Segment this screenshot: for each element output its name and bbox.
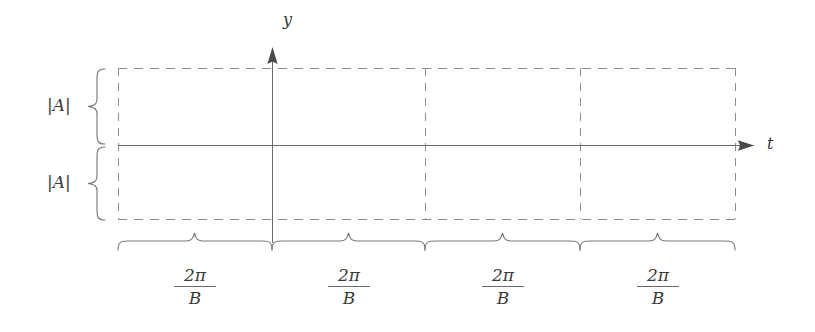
period-brace-4 (580, 233, 735, 250)
period-label-4: 2π B (637, 267, 679, 307)
period-numerator: 2π (174, 267, 216, 285)
fraction-bar (637, 286, 679, 287)
t-axis-arrowhead (738, 140, 754, 150)
period-numerator: 2π (482, 267, 524, 285)
period-numerator: 2π (637, 267, 679, 285)
amplitude-brace-group (88, 69, 105, 220)
y-axis-arrowhead (267, 47, 277, 64)
period-brace-3 (425, 233, 580, 250)
amplitude-brace-upper (88, 69, 105, 144)
period-denominator: B (328, 289, 370, 307)
period-denominator: B (482, 289, 524, 307)
fraction-bar (482, 286, 524, 287)
period-label-2: 2π B (328, 267, 370, 307)
y-axis-label: y (283, 12, 292, 28)
amplitude-label-upper: |A| (47, 97, 71, 114)
diagram-canvas (0, 0, 815, 332)
amplitude-brace-lower (88, 147, 105, 220)
fraction-bar (328, 286, 370, 287)
period-numerator: 2π (328, 267, 370, 285)
sinusoid-parameter-diagram: y t |A| |A| 2π B 2π B 2π B 2π B (0, 0, 815, 332)
period-label-3: 2π B (482, 267, 524, 307)
period-label-1: 2π B (174, 267, 216, 307)
period-denominator: B (637, 289, 679, 307)
period-brace-1 (118, 233, 272, 250)
amplitude-label-lower: |A| (47, 174, 71, 191)
period-denominator: B (174, 289, 216, 307)
period-brace-2 (272, 233, 425, 250)
period-brace-group (118, 233, 735, 250)
fraction-bar (174, 286, 216, 287)
t-axis-label: t (767, 136, 773, 152)
